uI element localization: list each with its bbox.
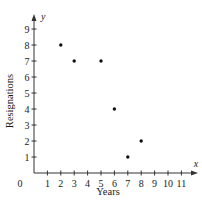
y-tick-label: 7 [25, 56, 30, 67]
x-tick-label: 10 [163, 178, 173, 189]
scatter-chart: 1234567891011 123456789 0 x y Years Resi… [0, 0, 202, 205]
data-point [59, 43, 62, 46]
x-tick-label: 9 [152, 178, 157, 189]
y-tick-label: 6 [25, 72, 30, 83]
x-tick-label: 8 [139, 178, 144, 189]
y-tick-label: 4 [25, 104, 30, 115]
axes [32, 14, 199, 176]
data-point [126, 155, 129, 158]
x-axis-arrow-icon [191, 171, 198, 176]
data-point [73, 59, 76, 62]
data-point [113, 107, 116, 110]
x-tick-label: 3 [72, 178, 77, 189]
x-tick-label: 1 [45, 178, 50, 189]
y-tick-label: 2 [25, 136, 30, 147]
y-tick-label: 5 [25, 88, 30, 99]
y-axis-ticks: 123456789 [25, 24, 37, 163]
x-tick-label: 11 [177, 178, 187, 189]
y-axis-letter: y [40, 11, 46, 22]
y-tick-label: 9 [25, 24, 30, 35]
x-tick-label: 2 [58, 178, 63, 189]
x-tick-label: 4 [85, 178, 90, 189]
x-axis-title: Years [96, 186, 119, 197]
data-point [99, 59, 102, 62]
data-point [140, 139, 143, 142]
y-tick-label: 3 [25, 120, 30, 131]
y-axis-title: Resignations [4, 74, 15, 128]
x-tick-label: 7 [125, 178, 130, 189]
plot-area: 1234567891011 123456789 0 x y Years Resi… [0, 0, 202, 205]
data-points [59, 43, 143, 158]
y-tick-label: 1 [25, 152, 30, 163]
x-axis-letter: x [193, 158, 199, 169]
origin-label: 0 [18, 178, 23, 189]
y-tick-label: 8 [25, 40, 30, 51]
y-axis-arrow-icon [32, 14, 37, 21]
